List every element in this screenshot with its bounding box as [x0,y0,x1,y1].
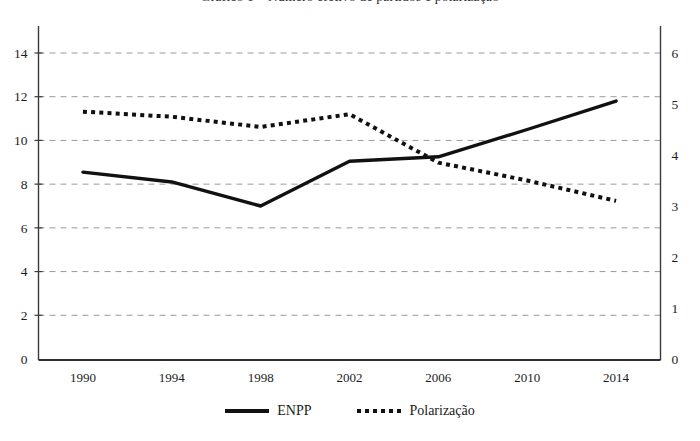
y-tick-label-right: 6 [672,46,679,61]
plot-area-wrapper: 02468101214 0123456 19901994199820022006… [0,0,700,441]
gridlines-group [39,53,661,315]
legend-item-polarizacao: Polarização [357,404,474,418]
solid-line-swatch-icon [225,409,269,412]
dotted-line-swatch-icon [357,409,401,413]
y-tick-label-left: 2 [21,308,28,323]
y-tick-label-right: 4 [672,148,679,163]
data-series-group [83,101,616,206]
x-tick-label: 2010 [514,370,540,385]
y-tick-label-left: 10 [14,133,28,148]
y-tick-label-right: 3 [672,199,679,214]
y-tick-label-right: 0 [672,352,679,367]
y-tick-label-left: 8 [21,177,28,192]
right-axis-tick-labels: 0123456 [672,46,679,367]
y-tick-label-left: 12 [14,89,28,104]
y-tick-label-right: 5 [672,97,679,112]
x-tick-label: 1990 [70,370,96,385]
left-axis-tick-labels: 02468101214 [14,46,28,367]
chart-legend: ENPP Polarização [0,404,700,418]
chart-figure: Gráfico 1 – Número efetivo de partidos e… [0,0,700,441]
legend-label-polarizacao: Polarização [409,404,474,418]
x-tick-label: 2002 [337,370,363,385]
axes-group [39,26,661,360]
legend-item-enpp: ENPP [225,404,311,418]
y-tick-label-right: 1 [672,301,679,316]
legend-label-enpp: ENPP [277,404,311,418]
x-axis-tick-labels: 1990199419982002200620102014 [70,370,630,385]
y-tick-label-left: 14 [14,46,28,61]
line-chart-svg: 02468101214 0123456 19901994199820022006… [0,0,700,441]
x-tick-label: 1994 [159,370,186,385]
x-tick-label: 2006 [425,370,452,385]
x-tick-label: 1998 [248,370,274,385]
y-tick-label-right: 2 [672,250,679,265]
x-tick-label: 2014 [603,370,630,385]
y-tick-label-left: 6 [21,221,28,236]
series-line-enpp [83,101,616,206]
y-tick-label-left: 0 [21,352,28,367]
y-tick-label-left: 4 [21,264,28,279]
